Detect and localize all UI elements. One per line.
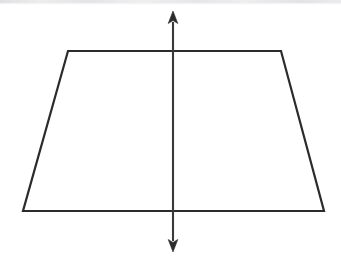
symmetry-axis-arrowhead-down-icon [168,240,178,253]
figure-canvas: Isosceles trapezoid with vertical line o… [0,0,341,269]
geometry-diagram: Isosceles trapezoid with vertical line o… [0,0,341,269]
symmetry-axis-arrowhead-up-icon [168,11,178,24]
